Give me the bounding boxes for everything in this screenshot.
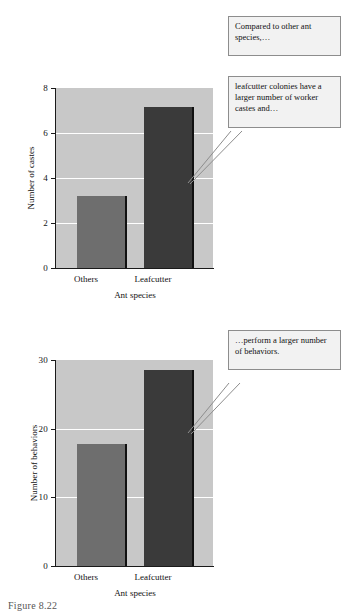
ytick-behaviors-20 [51,429,55,430]
ytick-castes-2 [51,223,55,224]
ytick-castes-0 [51,268,55,269]
xtick-label-behaviors-others: Others [57,572,115,582]
xtick-label-castes-leafcutter: Leafcutter [124,274,182,284]
y-axis-title-behaviors: Number of behaviors [29,408,39,518]
x-axis-title-behaviors: Ant species [85,588,185,598]
bar-castes-leafcutter-edge [192,107,194,268]
callout-compared[interactable]: Compared to other ant species,… [228,16,341,56]
ytick-label-castes-0: 0 [30,264,48,273]
figure-container: 8 6 4 2 0 Number of castes Others Leafcu… [0,0,347,613]
xtick-label-behaviors-leafcutter: Leafcutter [124,572,182,582]
ytick-castes-6 [51,133,55,134]
ytick-behaviors-10 [51,497,55,498]
bar-behaviors-others-edge [125,444,127,566]
bar-castes-others-edge [125,196,127,268]
y-axis-behaviors [55,360,56,567]
bar-behaviors-leafcutter [144,370,192,566]
x-axis-title-castes: Ant species [85,290,185,300]
xtick-label-castes-others: Others [57,274,115,284]
ytick-castes-4 [51,178,55,179]
ytick-label-castes-8: 8 [30,84,48,93]
plot-area-behaviors [56,360,213,566]
bar-castes-leafcutter [144,107,192,268]
bar-behaviors-leafcutter-edge [192,370,194,566]
plot-area-castes [56,88,213,268]
x-axis-behaviors [55,566,214,567]
bar-castes-others [77,196,125,268]
bar-behaviors-others [77,444,125,566]
y-axis-title-castes: Number of castes [26,128,36,228]
ytick-label-behaviors-0: 0 [26,562,48,571]
callout-behaviors[interactable]: …perform a larger number of behaviors. [228,330,341,370]
ytick-behaviors-30 [51,360,55,361]
figure-caption: Figure 8.22 [8,600,57,611]
ytick-label-behaviors-30: 30 [26,356,48,365]
ytick-castes-8 [51,88,55,89]
x-axis-castes [55,268,214,269]
ytick-behaviors-0 [51,566,55,567]
callout-castes[interactable]: leafcutter colonies have a larger number… [228,76,341,128]
y-axis-castes [55,88,56,269]
